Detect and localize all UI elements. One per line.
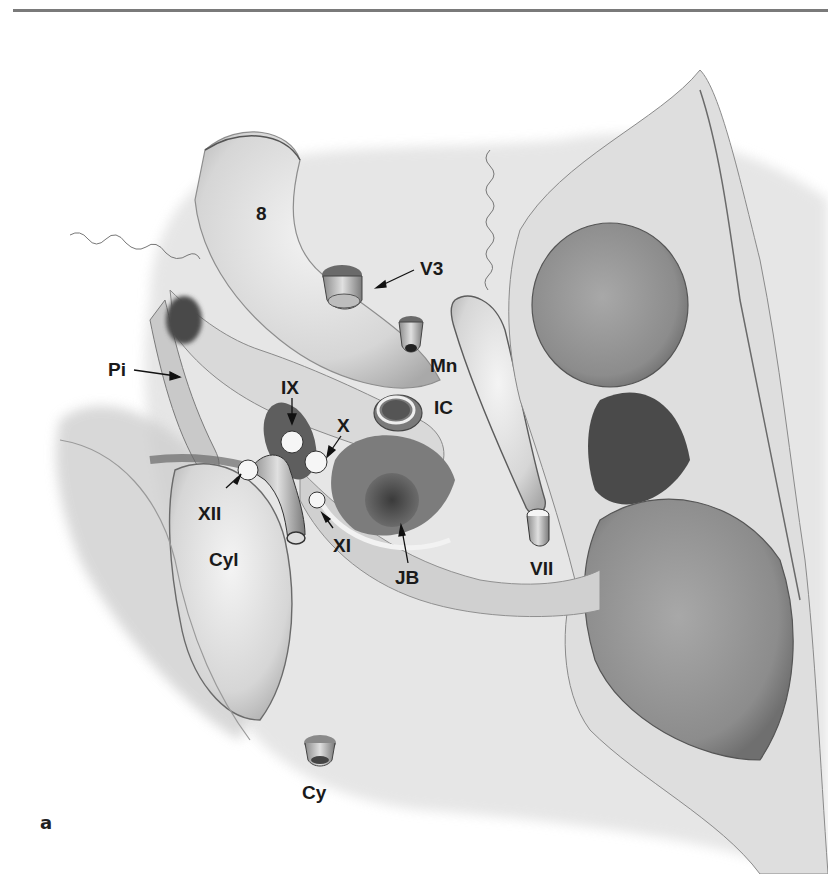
orbit-fossa (532, 223, 688, 387)
stylomastoid-vii (527, 509, 549, 546)
label-xii: XII (198, 503, 221, 524)
condylar-cy (304, 735, 336, 766)
label-xi: XI (333, 535, 351, 556)
dark-notch (166, 296, 202, 344)
anatomical-illustration: 8 V3 Mn IC Pi IX X XII XI Cyl JB VII Cy (0, 0, 828, 874)
label-jb: JB (395, 567, 419, 588)
label-cyl: Cyl (209, 549, 239, 570)
nerve-xii (238, 460, 258, 480)
label-vii: VII (530, 558, 553, 579)
label-ic: IC (434, 397, 453, 418)
label-v3: V3 (420, 258, 443, 279)
label-8: 8 (256, 203, 267, 224)
label-mn: Mn (430, 355, 457, 376)
foramen-mn (399, 316, 423, 352)
label-cy: Cy (302, 782, 327, 803)
label-x: X (337, 415, 350, 436)
nerve-x (305, 451, 327, 473)
nerve-ix (281, 431, 303, 453)
label-ix: IX (281, 377, 299, 398)
panel-label: a (40, 812, 52, 833)
label-pi: Pi (108, 359, 126, 380)
nerve-xi (309, 492, 325, 508)
foramen-ovale-v3 (322, 265, 362, 309)
carotid-canal-ic (374, 395, 422, 431)
